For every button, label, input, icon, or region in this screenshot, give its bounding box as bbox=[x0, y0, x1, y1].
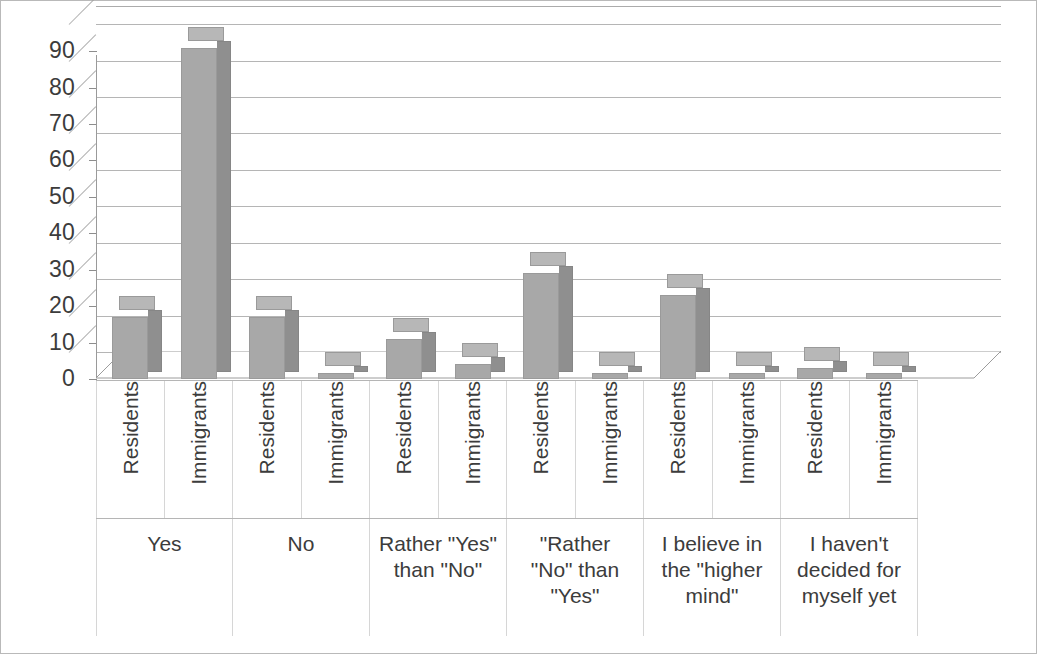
y-axis-tick-label: 60 bbox=[23, 148, 75, 171]
bar-top-face bbox=[736, 352, 772, 366]
bar-side-face bbox=[696, 288, 710, 372]
group-axis-label: Yes bbox=[147, 531, 181, 557]
bar bbox=[318, 359, 354, 379]
bar-top-face bbox=[667, 274, 703, 288]
group-axis-cell: Rather "Yes" than "No" bbox=[370, 519, 507, 636]
series-axis-label: Residents bbox=[393, 381, 414, 476]
chart-container: 9080706050403020100 ResidentsImmigrantsR… bbox=[0, 0, 1037, 654]
bar-side-face bbox=[491, 357, 505, 372]
bar-front-face bbox=[797, 368, 833, 379]
bar bbox=[797, 354, 833, 379]
series-axis-cell: Immigrants bbox=[439, 381, 508, 519]
bar-top-face bbox=[256, 296, 292, 310]
series-axis-label: Immigrants bbox=[188, 381, 209, 487]
bar bbox=[181, 34, 217, 379]
bar-side-face bbox=[559, 266, 573, 372]
y-axis-tick-label: 30 bbox=[23, 258, 75, 281]
series-axis-label: Immigrants bbox=[873, 381, 894, 487]
series-axis-cell: Residents bbox=[233, 381, 302, 519]
bar-top-face bbox=[804, 347, 840, 361]
plot-top-edge bbox=[96, 6, 1001, 7]
y-axis-tick-label: 40 bbox=[23, 221, 75, 244]
bar bbox=[386, 325, 422, 379]
bar-front-face bbox=[318, 373, 354, 379]
y-axis-tick-label: 90 bbox=[23, 39, 75, 62]
group-axis-label: "Rather "No" than "Yes" bbox=[531, 531, 619, 609]
bar-top-face bbox=[325, 352, 361, 366]
bar-front-face bbox=[249, 317, 285, 379]
bar-side-face bbox=[217, 41, 231, 372]
series-axis-cell: Residents bbox=[370, 381, 439, 519]
bar-side-face bbox=[833, 361, 847, 372]
bar-front-face bbox=[112, 317, 148, 379]
gridline bbox=[96, 24, 1001, 25]
group-axis-cell: No bbox=[233, 519, 370, 636]
series-axis-label: Residents bbox=[804, 381, 825, 476]
bar-side-face bbox=[902, 366, 916, 372]
bar-front-face bbox=[729, 373, 765, 379]
bar-top-face bbox=[462, 343, 498, 357]
series-axis-cell: Residents bbox=[644, 381, 713, 519]
bar-top-face bbox=[188, 27, 224, 41]
series-axis-cell: Residents bbox=[96, 381, 165, 519]
series-axis-label: Immigrants bbox=[736, 381, 757, 487]
bar-front-face bbox=[455, 364, 491, 379]
bar-top-face bbox=[393, 318, 429, 332]
bar-top-face bbox=[599, 352, 635, 366]
bar-side-face bbox=[148, 310, 162, 372]
y-axis-tick-label: 20 bbox=[23, 294, 75, 317]
bar-side-face bbox=[354, 366, 368, 372]
bar bbox=[660, 281, 696, 379]
group-axis-label: Rather "Yes" than "No" bbox=[379, 531, 497, 583]
group-axis-label: I believe in the "higher mind" bbox=[662, 531, 763, 609]
bar-front-face bbox=[523, 273, 559, 379]
series-axis-label: Immigrants bbox=[599, 381, 620, 487]
series-axis-label: Immigrants bbox=[325, 381, 346, 487]
group-axis-cell: I haven't decided for myself yet bbox=[781, 519, 918, 636]
bar-side-face bbox=[628, 366, 642, 372]
group-axis-cell: "Rather "No" than "Yes" bbox=[507, 519, 644, 636]
series-axis-cell: Immigrants bbox=[713, 381, 782, 519]
group-axis: YesNoRather "Yes" than "No""Rather "No" … bbox=[96, 518, 918, 635]
bar bbox=[729, 359, 765, 379]
gridline-depth-connector bbox=[69, 0, 97, 25]
series-axis-cell: Immigrants bbox=[576, 381, 645, 519]
series-axis-label: Residents bbox=[256, 381, 277, 476]
bar-front-face bbox=[181, 48, 217, 379]
series-axis-label: Immigrants bbox=[462, 381, 483, 487]
group-axis-cell: Yes bbox=[96, 519, 233, 636]
bar bbox=[112, 303, 148, 379]
series-axis-label: Residents bbox=[667, 381, 688, 476]
bar bbox=[455, 350, 491, 379]
y-axis-tick-label: 70 bbox=[23, 112, 75, 135]
y-axis-tick-label: 0 bbox=[23, 367, 75, 390]
series-axis-cell: Immigrants bbox=[850, 381, 919, 519]
bar-side-face bbox=[422, 332, 436, 372]
series-axis-label: Residents bbox=[120, 381, 141, 476]
series-axis-cell: Immigrants bbox=[165, 381, 234, 519]
series-axis-cell: Residents bbox=[781, 381, 850, 519]
series-axis-cell: Residents bbox=[507, 381, 576, 519]
bar bbox=[866, 359, 902, 379]
y-axis-tick-label: 80 bbox=[23, 76, 75, 99]
group-axis-label: I haven't decided for myself yet bbox=[797, 531, 901, 609]
bar bbox=[523, 259, 559, 379]
y-axis-tick-label: 10 bbox=[23, 331, 75, 354]
bar-side-face bbox=[285, 310, 299, 372]
bar-side-face bbox=[765, 366, 779, 372]
bar bbox=[592, 359, 628, 379]
bar bbox=[249, 303, 285, 379]
bar-front-face bbox=[660, 295, 696, 379]
bar-top-face bbox=[119, 296, 155, 310]
group-axis-label: No bbox=[288, 531, 315, 557]
bar-front-face bbox=[592, 373, 628, 379]
group-axis-cell: I believe in the "higher mind" bbox=[644, 519, 781, 636]
bar-top-face bbox=[530, 252, 566, 266]
bar-front-face bbox=[866, 373, 902, 379]
bars-layer bbox=[96, 29, 1001, 379]
bar-top-face bbox=[873, 352, 909, 366]
y-axis-tick-label: 50 bbox=[23, 185, 75, 208]
series-axis: ResidentsImmigrantsResidentsImmigrantsRe… bbox=[96, 380, 918, 518]
bar-front-face bbox=[386, 339, 422, 379]
series-axis-cell: Immigrants bbox=[302, 381, 371, 519]
